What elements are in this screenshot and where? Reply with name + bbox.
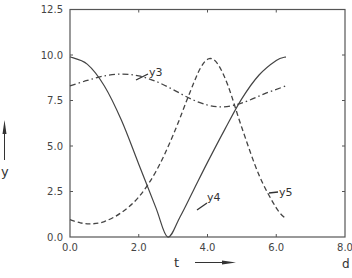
- x-tick-label: 0.0: [62, 242, 78, 253]
- curve-label-y4: y4: [207, 191, 221, 204]
- x-axis-title-group: t d: [174, 255, 350, 271]
- x-tick-label: 2.0: [131, 242, 147, 253]
- curve-y3: [70, 74, 286, 107]
- leader-y3: [136, 74, 148, 80]
- label-y5-group: y5: [269, 186, 293, 199]
- y-tick-label: 10.0: [41, 50, 63, 61]
- curve-label-y5: y5: [279, 186, 293, 199]
- leader-y5: [269, 192, 278, 193]
- x-tick-label: 4.0: [200, 242, 216, 253]
- label-y4-group: y4: [197, 191, 221, 210]
- x-axis-ticks: 0.02.04.06.08.0: [62, 10, 352, 254]
- x-axis-unit: d: [342, 257, 350, 271]
- y-tick-label: 12.5: [41, 4, 63, 15]
- x-axis-title: t: [174, 255, 179, 270]
- curve-label-y3: y3: [149, 66, 163, 79]
- y-axis-ticks: 0.02.55.07.510.012.5: [41, 4, 345, 243]
- label-y3-group: y3: [136, 66, 163, 80]
- x-tick-label: 6.0: [268, 242, 284, 253]
- y-tick-label: 2.5: [47, 186, 63, 197]
- chart-canvas: 0.02.04.06.08.0 0.02.55.07.510.012.5 y3 …: [0, 0, 352, 278]
- y-axis-title-group: y: [1, 120, 9, 179]
- x-tick-label: 8.0: [337, 242, 352, 253]
- curve-y4: [70, 57, 286, 237]
- y-tick-label: 0.0: [47, 232, 63, 243]
- x-axis-arrow-icon: [222, 261, 236, 265]
- y-axis-title: y: [1, 164, 9, 179]
- y-tick-label: 5.0: [47, 141, 63, 152]
- leader-y4: [197, 203, 207, 210]
- y-tick-label: 7.5: [47, 95, 63, 106]
